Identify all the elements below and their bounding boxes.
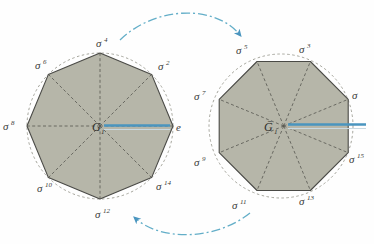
label-sigma1: σ xyxy=(352,89,358,101)
label-sigma4: σ xyxy=(96,37,102,49)
label-sigma15-exponent: 15 xyxy=(357,152,365,160)
label-sigma10-exponent: 10 xyxy=(45,181,53,189)
label-sigma6-exponent: 6 xyxy=(43,58,47,66)
left-center-subscript: 1 xyxy=(101,128,105,136)
label-sigma7-exponent: 7 xyxy=(202,89,206,97)
right-center-label: Ḡ xyxy=(264,120,273,134)
label-sigma12-exponent: 12 xyxy=(103,207,111,215)
label-sigma9: σ xyxy=(194,156,200,168)
label-sigma14: σ xyxy=(156,180,162,192)
figure-canvas: G 1 σ 4 σ 2 σ 14 σ 12 σ 10 σ 8 σ 6 e xyxy=(0,0,374,244)
label-identity-e: e xyxy=(176,121,181,133)
label-sigma2-exponent: 2 xyxy=(166,59,170,67)
label-sigma9-exponent: 9 xyxy=(202,155,206,163)
label-sigma4-exponent: 4 xyxy=(104,36,108,44)
label-sigma8-exponent: 8 xyxy=(11,119,15,127)
label-sigma2: σ xyxy=(158,60,164,72)
label-sigma5: σ xyxy=(236,44,242,56)
label-sigma11-exponent: 11 xyxy=(240,198,246,206)
label-sigma5-exponent: 5 xyxy=(244,43,248,51)
label-sigma7: σ xyxy=(194,90,200,102)
label-sigma8: σ xyxy=(3,120,9,132)
label-sigma12: σ xyxy=(95,208,101,220)
left-center-label: G xyxy=(92,120,101,134)
right-center-subscript: 1 xyxy=(274,128,278,136)
label-sigma14-exponent: 14 xyxy=(164,179,172,187)
label-sigma3-exponent: 3 xyxy=(306,42,311,50)
label-sigma6: σ xyxy=(35,59,41,71)
label-sigma13-exponent: 13 xyxy=(307,194,315,202)
label-sigma13: σ xyxy=(299,195,305,207)
label-sigma15: σ xyxy=(349,153,355,165)
label-sigma10: σ xyxy=(37,182,43,194)
label-sigma11: σ xyxy=(232,199,238,211)
label-sigma3: σ xyxy=(299,43,305,55)
